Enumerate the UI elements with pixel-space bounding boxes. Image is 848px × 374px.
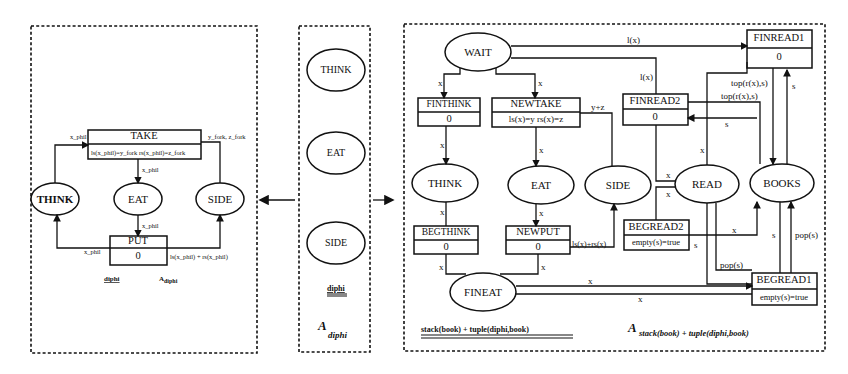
edge-label: x (638, 294, 643, 304)
transition-newtake[interactable]: NEWTAKE ls(x)=y rs(x)=z (492, 98, 580, 127)
transition-finthink[interactable]: FINTHINK 0 (418, 98, 480, 126)
algebra-title-sub: diphi (164, 278, 178, 284)
place-eat-label: EAT (531, 179, 551, 191)
edge-label: top(r(x),s) (731, 78, 768, 88)
edge-label: y_fork, z_fork (208, 133, 246, 140)
place-think-label: THINK (428, 177, 462, 189)
place-books-label: BOOKS (763, 177, 800, 189)
edge-label: pop(s) (795, 230, 818, 240)
transition-label: NEWTAKE (510, 98, 561, 109)
place-think[interactable]: THINK (307, 49, 365, 91)
edge-label: x (588, 276, 593, 286)
transition-label: NEWPUT (516, 226, 560, 237)
place-fineat[interactable]: FINEAT (450, 273, 516, 311)
transition-take-guard: ls(x_phil)=y_fork rs(x_phil)=z_fork (91, 149, 186, 157)
transition-guard: empty(s)=true (632, 237, 680, 247)
transition-label: BEGREAD1 (757, 274, 812, 285)
transition-label: FINTHINK (427, 99, 472, 109)
edge-label: l(x) (627, 35, 640, 45)
edge-put-side (167, 215, 220, 248)
edge-label: x_phil (142, 222, 159, 229)
edge-label: s (792, 81, 796, 91)
place-read-label: READ (692, 178, 722, 190)
edge-label: x (666, 170, 671, 180)
edge-label: ls(x_phil) + rs(x_phil) (170, 253, 228, 261)
edge-begread2-books (689, 202, 757, 235)
transition-take[interactable]: TAKE ls(x_phil)=y_fork rs(x_phil)=z_fork (88, 130, 201, 159)
transition-put-guard: 0 (135, 250, 140, 261)
signature-label: stack(book) + tuple(diphi,book) (421, 325, 529, 334)
transition-label: BEGTHINK (422, 227, 471, 237)
transition-label: BEGREAD2 (629, 221, 684, 232)
place-label: EAT (327, 147, 345, 158)
signature-label: diphi (104, 275, 120, 283)
transition-newput[interactable]: NEWPUT 0 (506, 226, 570, 254)
place-wait-label: WAIT (464, 46, 492, 58)
place-think[interactable]: THINK (31, 183, 79, 215)
diagram-canvas: TAKE ls(x_phil)=y_fork rs(x_phil)=z_fork… (0, 0, 848, 374)
place-side[interactable]: SIDE (196, 183, 244, 215)
place-think-label: THINK (37, 193, 74, 205)
transition-label: FINREAD2 (630, 95, 681, 106)
place-books[interactable]: BOOKS (750, 164, 814, 202)
edge-take-side (201, 142, 220, 183)
edge-label: s (725, 119, 729, 129)
place-eat[interactable]: EAT (508, 166, 574, 204)
transition-begread1[interactable]: BEGREAD1 empty(s)=true (752, 273, 817, 305)
edge-label: s (772, 230, 776, 240)
edge-label: x (700, 145, 705, 155)
signature-label: diphi (327, 284, 346, 293)
place-wait[interactable]: WAIT (445, 33, 511, 71)
transition-guard: 0 (776, 51, 781, 62)
transition-begread2[interactable]: BEGREAD2 empty(s)=true (624, 220, 689, 250)
place-label: SIDE (325, 237, 347, 248)
edge-label: x (541, 262, 546, 272)
edge-label: y+z (591, 102, 605, 112)
right-panel: WAIT FINTHINK 0 NEWTAKE ls(x)=y rs(x)=z … (404, 24, 825, 351)
transition-guard: 0 (652, 111, 657, 122)
place-side[interactable]: SIDE (585, 166, 651, 204)
transition-put[interactable]: PUT 0 (110, 235, 167, 265)
edge-label: pop(s) (720, 260, 743, 270)
transition-guard: empty(s)=true (760, 292, 808, 302)
edge-label: x_phil (142, 166, 159, 173)
transition-guard: 0 (535, 241, 540, 252)
edge-put-think (57, 215, 110, 248)
place-eat[interactable]: EAT (307, 132, 365, 174)
edge-label: ls(x)+rs(x) (572, 240, 607, 249)
transition-guard: ls(x)=y rs(x)=z (509, 114, 563, 124)
transition-put-label: PUT (128, 235, 148, 246)
place-think[interactable]: THINK (412, 164, 478, 202)
edge-think-take (55, 145, 88, 183)
edge-label: x_phil (84, 248, 101, 255)
edge-label: x_phil (70, 133, 87, 140)
edge-newtake-side (580, 113, 612, 166)
edge-label: x (440, 207, 445, 217)
transition-guard: 0 (443, 241, 448, 252)
edge-label: x (440, 140, 445, 150)
edge-begthink-fineat (446, 254, 466, 274)
edge-wait-finread2 (511, 58, 656, 94)
transition-begthink[interactable]: BEGTHINK 0 (414, 226, 478, 254)
left-panel: TAKE ls(x_phil)=y_fork rs(x_phil)=z_fork… (31, 26, 257, 353)
edge-wait-finthink (444, 68, 460, 98)
algebra-title: A (317, 318, 327, 333)
place-eat[interactable]: EAT (114, 183, 162, 215)
transition-label: FINREAD1 (754, 32, 805, 43)
place-side[interactable]: SIDE (307, 222, 365, 264)
transition-finread2[interactable]: FINREAD2 0 (623, 94, 688, 125)
place-read[interactable]: READ (675, 165, 739, 203)
edge-newput-fineat (500, 254, 538, 274)
place-eat-label: EAT (128, 193, 148, 205)
place-side-label: SIDE (606, 179, 631, 191)
edge-label: x (438, 78, 443, 88)
place-label: THINK (320, 64, 352, 75)
transition-guard: 0 (446, 113, 451, 124)
edge-label: x (538, 78, 543, 88)
transition-finread1[interactable]: FINREAD1 0 (747, 30, 812, 68)
edge-label: x (539, 145, 544, 155)
edge-wait-newtake (496, 68, 535, 98)
place-side-label: SIDE (208, 193, 233, 205)
edge-finread2-books-1 (688, 102, 760, 164)
algebra-title-sub: stack(book) + tuple(diphi,book) (638, 328, 749, 338)
